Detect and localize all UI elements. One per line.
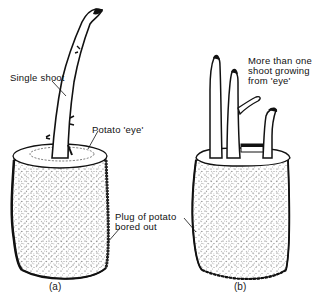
label-potato-eye: Potato 'eye' bbox=[92, 124, 143, 135]
caption-panel-a: (a) bbox=[49, 281, 61, 292]
label-plug-line2: bored out bbox=[115, 221, 157, 232]
potato-plug-figure: Single shoot Potato 'eye' More than one … bbox=[0, 0, 313, 297]
label-multiple-shoots-line3: from 'eye' bbox=[248, 75, 291, 86]
illustration-canvas bbox=[0, 0, 313, 297]
panel-a-potato-plug bbox=[12, 144, 109, 279]
panel-b-potato-plug bbox=[192, 148, 290, 279]
label-single-shoot: Single shoot bbox=[10, 72, 65, 83]
caption-panel-b: (b) bbox=[234, 281, 246, 292]
